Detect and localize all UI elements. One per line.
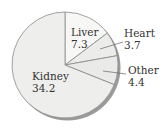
label-other: Other 4.4	[128, 64, 159, 88]
label-kidney-name: Kidney	[32, 70, 69, 82]
label-kidney-value: 34.2	[32, 82, 69, 94]
label-heart-name: Heart	[124, 27, 155, 39]
label-heart-value: 3.7	[124, 39, 155, 51]
label-liver-name: Liver	[71, 26, 99, 38]
label-kidney: Kidney 34.2	[32, 70, 69, 94]
label-liver-value: 7.3	[71, 38, 99, 50]
label-liver: Liver 7.3	[71, 26, 99, 50]
pie-slices	[12, 12, 118, 118]
label-other-name: Other	[128, 64, 159, 76]
label-heart: Heart 3.7	[124, 27, 155, 51]
label-other-value: 4.4	[128, 76, 159, 88]
